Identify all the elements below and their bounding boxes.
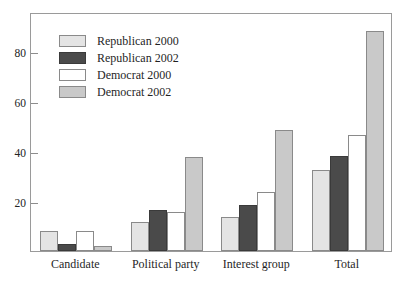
bar — [275, 130, 293, 251]
legend-label-democrat-2000: Democrat 2000 — [97, 69, 171, 81]
y-tick-label-80: 80 — [15, 48, 27, 60]
legend-label-republican-2002: Republican 2002 — [97, 52, 179, 64]
plot-area: 20406080 Republican 2000 Republican 2002… — [30, 13, 392, 252]
legend: Republican 2000 Republican 2002 Democrat… — [59, 33, 179, 101]
bar — [149, 210, 167, 251]
y-tick-label-20: 20 — [15, 198, 27, 210]
x-axis-label-total: Total — [335, 258, 360, 270]
bar — [76, 231, 94, 251]
x-axis-label-political-party: Political party — [132, 258, 200, 270]
legend-item: Democrat 2002 — [59, 84, 179, 100]
legend-item: Democrat 2000 — [59, 67, 179, 83]
legend-swatch-democrat-2000 — [59, 69, 86, 81]
legend-swatch-democrat-2002 — [59, 86, 86, 98]
bar — [167, 212, 185, 251]
legend-swatch-republican-2000 — [59, 35, 86, 47]
bar — [221, 217, 239, 251]
bar — [58, 244, 76, 252]
legend-label-republican-2000: Republican 2000 — [97, 35, 179, 47]
bar — [312, 170, 330, 251]
bar — [366, 31, 384, 251]
bar — [40, 231, 58, 251]
x-axis-label-candidate: Candidate — [51, 258, 100, 270]
y-tick-label-60: 60 — [15, 98, 27, 110]
legend-item: Republican 2000 — [59, 33, 179, 49]
x-axis-label-interest-group: Interest group — [223, 258, 290, 270]
bar — [330, 156, 348, 251]
bar — [239, 205, 257, 251]
y-tick-label-40: 40 — [15, 148, 27, 160]
bar-chart: 20406080 Republican 2000 Republican 2002… — [0, 0, 407, 289]
bar — [131, 222, 149, 251]
bar — [185, 157, 203, 251]
bar — [94, 246, 112, 251]
bar — [348, 135, 366, 251]
legend-swatch-republican-2002 — [59, 52, 86, 64]
bar — [257, 192, 275, 251]
legend-item: Republican 2002 — [59, 50, 179, 66]
legend-label-democrat-2002: Democrat 2002 — [97, 86, 171, 98]
